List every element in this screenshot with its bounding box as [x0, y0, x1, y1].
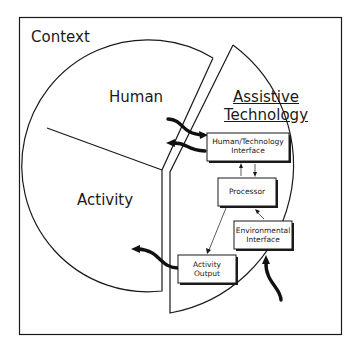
assistive-technology-label: Assistive Technology — [212, 88, 320, 124]
activity-output-line-2: Output — [178, 269, 236, 278]
hti-label-line-2: Interface — [207, 146, 289, 155]
processor-label: Processor — [218, 187, 276, 196]
activity-output-line-1: Activity — [178, 260, 236, 269]
environmental-interface-label: Environmental Interface — [234, 226, 292, 244]
human-label: Human — [109, 88, 163, 106]
context-label: Context — [31, 28, 90, 46]
hti-label: Human/Technology Interface — [207, 137, 289, 155]
activity-label: Activity — [77, 191, 133, 209]
environmental-label-line-1: Environmental — [234, 226, 292, 235]
activity-output-label: Activity Output — [178, 260, 236, 278]
assistive-technology-line-2: Technology — [212, 106, 320, 124]
environmental-label-line-2: Interface — [234, 235, 292, 244]
hti-label-line-1: Human/Technology — [207, 137, 289, 146]
assistive-technology-line-1: Assistive — [212, 88, 320, 106]
